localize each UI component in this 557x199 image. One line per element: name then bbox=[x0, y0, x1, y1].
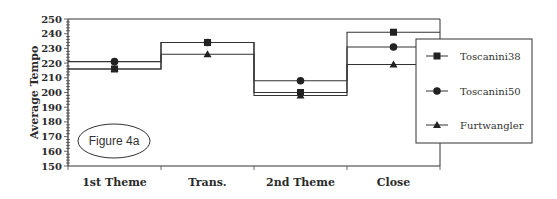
y-tick-label: 240 bbox=[41, 28, 62, 39]
x-category-label: 1st Theme bbox=[82, 176, 147, 189]
legend-toscanini50-circle-marker bbox=[433, 87, 441, 95]
y-tick-label: 200 bbox=[41, 87, 62, 98]
y-tick-label: 190 bbox=[41, 102, 62, 113]
tempo-step-chart: 150160170180190200210220230240250Average… bbox=[0, 0, 557, 199]
x-category-label: 2nd Theme bbox=[266, 176, 335, 189]
y-axis-label: Average Tempo bbox=[28, 46, 41, 141]
x-category-label: Trans. bbox=[188, 176, 226, 189]
y-tick-label: 250 bbox=[41, 14, 62, 25]
y-tick-label: 160 bbox=[41, 146, 62, 157]
legend-label: Furtwangler bbox=[460, 120, 524, 131]
y-tick-label: 170 bbox=[41, 131, 62, 142]
x-category-label: Close bbox=[377, 176, 410, 189]
data-point-toscanini50-circle-marker bbox=[297, 77, 305, 85]
legend-label: Toscanini50 bbox=[460, 86, 521, 97]
data-point-toscanini50-circle-marker bbox=[390, 43, 398, 51]
legend-label: Toscanini38 bbox=[460, 51, 521, 62]
y-tick-label: 220 bbox=[41, 58, 62, 69]
y-tick-label: 210 bbox=[41, 72, 62, 83]
y-tick-label: 150 bbox=[41, 161, 62, 172]
figure-label: Figure 4a bbox=[89, 134, 140, 148]
y-tick-label: 230 bbox=[41, 43, 62, 54]
data-point-toscanini50-circle-marker bbox=[111, 58, 119, 66]
legend-toscanini38-square-marker bbox=[434, 53, 441, 60]
series-line-furtwangler bbox=[68, 54, 440, 95]
y-tick-label: 180 bbox=[41, 116, 62, 127]
data-point-toscanini38-square-marker bbox=[390, 29, 397, 36]
data-point-toscanini50-circle-marker bbox=[204, 39, 212, 47]
